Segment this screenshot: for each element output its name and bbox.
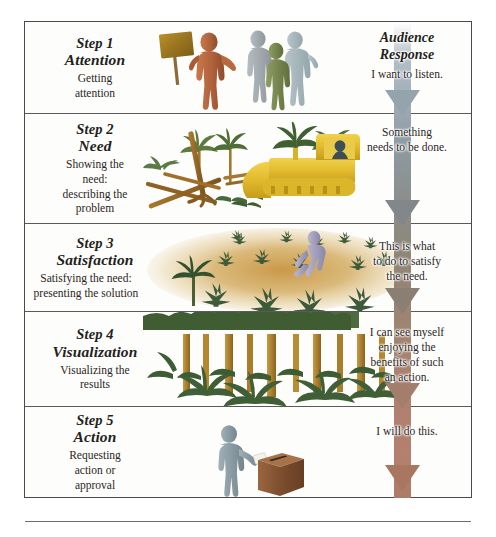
response-text-1: I want to listen. (371, 67, 443, 82)
response-text-2-line2: needs to be done. (367, 140, 447, 155)
step-description-4-line1: Visualizing the (60, 363, 129, 378)
response-cell-4: I can see myself enjoying the benefits o… (343, 312, 471, 406)
step-description-1: Getting attention (75, 71, 115, 100)
step-description-2-line4: problem (63, 201, 128, 216)
response-text-3-line2: to do to satisfy (373, 254, 441, 269)
step-description-4-line2: results (60, 377, 129, 392)
response-header-line2: Response (380, 47, 434, 64)
response-text-4: I can see myself enjoying the benefits o… (370, 325, 444, 385)
response-cell-3: This is what to do to satisfy the need. (343, 224, 471, 311)
step-number-2: Step 2 (76, 121, 113, 138)
step-description-2-line2: need: (63, 172, 128, 187)
table-row-step-3: Step 3 Satisfaction Satisfying the need:… (25, 223, 471, 311)
step-description-3-line2: presenting the solution (25, 286, 174, 301)
step-label-2: Step 2 Need Showing the need: describing… (25, 114, 165, 223)
step-name-5: Action (74, 428, 117, 446)
table-row-step-4: Step 4 Visualization Visualizing the res… (25, 311, 471, 406)
step-name-2: Need (78, 137, 111, 155)
response-cell-2: Something needs to be done. (343, 114, 471, 223)
step-description-3: Satisfying the need: presenting the solu… (25, 271, 174, 300)
step-description-5-line1: Requesting (69, 448, 121, 463)
table-row-step-2: Step 2 Need Showing the need: describing… (25, 113, 471, 223)
step-description-2-line3: describing the (63, 187, 128, 202)
illustration-person-casting-ballot (201, 421, 321, 497)
step-description-4: Visualizing the results (60, 363, 129, 392)
response-text-4-line4: an action. (370, 370, 444, 385)
illustration-speaker-with-sign-and-audience (150, 24, 350, 112)
response-header-line1: Audience (380, 30, 434, 47)
step-description-1-line1: Getting (75, 71, 115, 86)
response-text-1-line1: I want to listen. (371, 67, 443, 82)
step-description-5-line3: approval (69, 478, 121, 493)
step-label-1: Step 1 Attention Getting attention (25, 22, 165, 113)
step-number-1: Step 1 (76, 35, 113, 52)
step-name-3: Satisfaction (57, 251, 134, 269)
footer-rule (25, 521, 471, 522)
step-description-2: Showing the need: describing the problem (63, 157, 128, 216)
response-cell-1: Audience Response I want to listen. (343, 22, 471, 113)
response-header: Audience Response (380, 30, 434, 63)
step-label-4: Step 4 Visualization Visualizing the res… (25, 312, 165, 406)
response-cell-5: I will do this. (343, 407, 471, 497)
step-number-3: Step 3 (76, 235, 113, 252)
table-row-step-1: Step 1 Attention Getting attention Audie… (25, 22, 471, 113)
response-text-3: This is what to do to satisfy the need. (373, 239, 441, 284)
response-text-3-line3: the need. (373, 269, 441, 284)
step-label-3: Step 3 Satisfaction Satisfying the need:… (25, 224, 165, 311)
step-description-2-line1: Showing the (63, 157, 128, 172)
motivated-sequence-table: Step 1 Attention Getting attention Audie… (24, 21, 472, 498)
step-number-5: Step 5 (76, 412, 113, 429)
response-text-5: I will do this. (376, 424, 437, 439)
step-description-5-line2: action or (69, 463, 121, 478)
step-label-5: Step 5 Action Requesting action or appro… (25, 407, 165, 497)
diagram-page: Step 1 Attention Getting attention Audie… (0, 0, 496, 537)
response-text-2-line1: Something (367, 125, 447, 140)
response-text-4-line1: I can see myself (370, 325, 444, 340)
response-text-3-line1: This is what (373, 239, 441, 254)
step-name-4: Visualization (53, 343, 138, 361)
step-number-4: Step 4 (76, 326, 113, 343)
step-description-5: Requesting action or approval (69, 448, 121, 492)
step-description-3-line1: Satisfying the need: (25, 271, 174, 286)
table-row-step-5: Step 5 Action Requesting action or appro… (25, 406, 471, 497)
step-description-1-line2: attention (75, 86, 115, 101)
response-text-4-line3: benefits of such (370, 355, 444, 370)
response-text-4-line2: enjoying the (370, 340, 444, 355)
response-text-2: Something needs to be done. (367, 125, 447, 155)
step-name-1: Attention (65, 51, 125, 69)
response-text-5-line1: I will do this. (376, 424, 437, 439)
